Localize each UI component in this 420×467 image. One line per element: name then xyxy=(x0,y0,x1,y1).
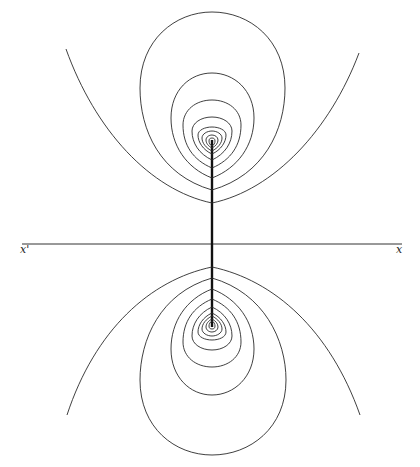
equipotential-diagram xyxy=(0,0,420,467)
x-axis-label: x xyxy=(396,243,402,256)
lower-curve-family xyxy=(67,267,360,455)
x-prime-axis-label: x' xyxy=(20,243,29,256)
